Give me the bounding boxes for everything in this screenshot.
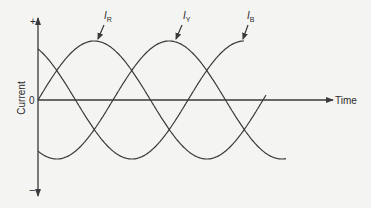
pointer-arrow-ir: [98, 25, 104, 39]
origin-label: 0: [29, 95, 35, 106]
svg-text:IR: IR: [104, 10, 112, 23]
label-ir: IR: [98, 10, 112, 39]
y-axis-label: Current: [16, 81, 27, 115]
svg-text:IY: IY: [183, 10, 191, 23]
pointer-arrow-ib: [243, 25, 248, 39]
y-axis-plus: +: [30, 16, 36, 27]
y-axis-minus: −: [29, 184, 35, 196]
label-iy: IY: [176, 10, 191, 39]
pointer-arrow-iy: [176, 25, 182, 39]
svg-text:IB: IB: [247, 10, 255, 23]
x-axis-label: Time: [335, 95, 357, 106]
label-ib: IB: [243, 10, 255, 39]
three-phase-waveform-diagram: + − 0 Current Time IR IY IB: [0, 0, 371, 208]
